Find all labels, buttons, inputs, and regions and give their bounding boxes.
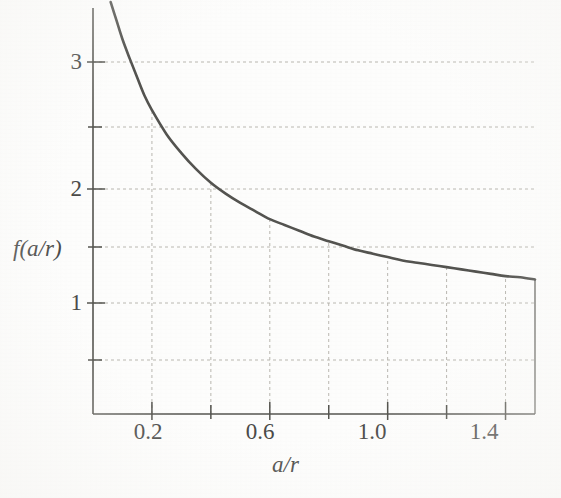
y-axis-title: f(a/r)	[13, 236, 62, 262]
horizontal-gridlines	[93, 62, 535, 360]
axis-lines	[93, 8, 535, 414]
x-tick-label-1-4: 1.4	[459, 419, 509, 445]
x-tick-label-1-0: 1.0	[347, 419, 397, 445]
y-axis-ticks	[87, 62, 105, 360]
vertical-gridlines	[152, 110, 535, 414]
y-tick-label-1: 1	[58, 290, 82, 316]
x-axis-ticks	[152, 402, 506, 420]
data-curve	[111, 2, 535, 279]
x-axis-title: a/r	[272, 452, 299, 478]
data-series-group	[111, 2, 535, 279]
x-tick-label-0-6: 0.6	[235, 419, 285, 445]
y-tick-label-2: 2	[58, 176, 82, 202]
chart-page: 3 2 1 0.2 0.6 1.0 1.4 f(a/r) a/r	[0, 0, 561, 498]
x-tick-label-0-2: 0.2	[123, 419, 173, 445]
y-tick-label-3: 3	[58, 49, 82, 75]
